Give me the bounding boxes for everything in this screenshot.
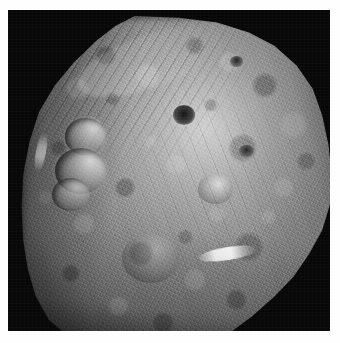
crater-small-east [239,145,253,157]
figure-caption [8,333,330,342]
crater-dark-central [173,105,195,125]
image-frame [8,10,330,331]
ejecta-streak-southeast [197,242,259,264]
crater-basin-south [122,234,179,284]
scarp-highlight-west [32,131,49,172]
crater-snowman-bottom [52,178,90,211]
crater-bright-rim-southeast [198,174,233,204]
crater-small-northeast [230,56,243,67]
page-root [0,0,340,343]
asteroid-body [20,16,330,331]
ridge-highlight-northwest [69,16,224,111]
